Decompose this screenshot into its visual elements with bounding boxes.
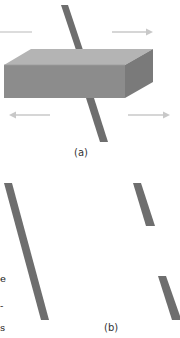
panel-a [0, 5, 170, 142]
rod-upper [61, 5, 83, 50]
broken-rod-upper [133, 183, 155, 226]
rod-lower [86, 98, 108, 142]
figure-canvas [0, 0, 180, 338]
panel-a-label: (a) [74, 147, 88, 158]
arrow-top-right-icon [112, 29, 153, 36]
panel-b [4, 183, 180, 320]
block [4, 49, 153, 98]
margin-fragment-1: e [0, 273, 6, 284]
margin-fragment-2: - [0, 300, 3, 311]
panel-b-label: (b) [104, 322, 118, 333]
arrow-bottom-left-icon [9, 112, 50, 119]
margin-fragment-3: s [0, 322, 5, 333]
block-front [4, 65, 125, 98]
continuous-rod [4, 183, 49, 320]
arrow-bottom-right-icon [128, 112, 170, 119]
broken-rod-lower [158, 276, 180, 320]
